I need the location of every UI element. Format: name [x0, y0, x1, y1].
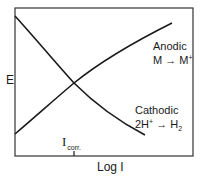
arrow-icon: → [165, 54, 176, 66]
anodic-reactant: M [153, 54, 162, 66]
icorr-label: Icorr. [62, 135, 81, 151]
evans-diagram [0, 0, 202, 180]
icorr-subscript: corr. [67, 144, 81, 151]
anodic-reaction: M → M+ [153, 54, 193, 66]
plot-frame [15, 8, 193, 156]
cathodic-title: Cathodic [135, 105, 178, 116]
x-axis-label: Log I [97, 161, 124, 173]
anodic-product-charge: + [188, 54, 192, 61]
cathodic-product-subscript: 2 [178, 125, 182, 132]
arrow-icon: → [156, 118, 167, 130]
y-axis-label: E [6, 74, 14, 86]
anodic-title: Anodic [153, 41, 187, 52]
cathodic-reaction: 2H+ → H2 [135, 118, 182, 132]
cathodic-reactant: 2H [135, 118, 149, 130]
cathodic-reactant-charge: + [149, 118, 153, 125]
icorr-main: I [62, 134, 66, 149]
